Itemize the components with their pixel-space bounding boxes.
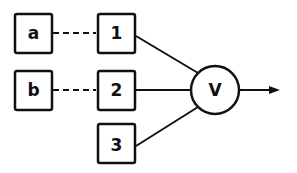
diagram-svg: a b 1 2 3 V xyxy=(0,0,297,173)
unit-node-1: 1 xyxy=(98,14,135,53)
combiner-node-label: V xyxy=(208,80,222,100)
unit-node-2: 2 xyxy=(98,71,135,110)
arrowhead-icon xyxy=(269,86,280,94)
diagram-canvas: a b 1 2 3 V xyxy=(0,0,297,173)
edge-3-v xyxy=(136,107,198,146)
input-node-a: a xyxy=(15,14,52,53)
unit-node-3: 3 xyxy=(98,124,135,163)
unit-node-2-label: 2 xyxy=(111,80,123,100)
input-node-b: b xyxy=(15,71,52,110)
edge-1-v xyxy=(136,36,198,73)
unit-node-1-label: 1 xyxy=(111,23,123,43)
input-node-b-label: b xyxy=(27,80,39,100)
combiner-node-v: V xyxy=(191,66,239,114)
unit-node-3-label: 3 xyxy=(111,135,123,155)
input-node-a-label: a xyxy=(28,23,39,43)
